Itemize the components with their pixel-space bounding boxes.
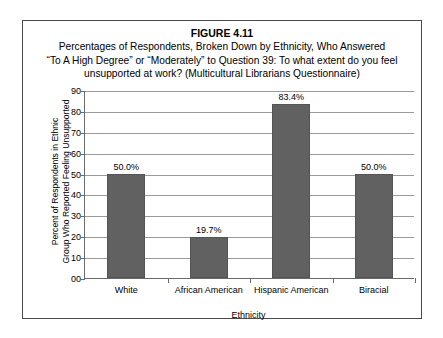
y-axis-tick-label: 60: [71, 149, 81, 159]
bar-value-label: 50.0%: [113, 162, 139, 172]
y-axis-tick-label: 30: [71, 211, 81, 221]
x-axis-tick-mark: [415, 278, 416, 283]
y-axis-tick-mark: [81, 91, 85, 92]
y-axis-title-line-1: Percent of Respondents in Ethnic: [50, 87, 61, 277]
figure-frame: FIGURE 4.11 Percentages of Respondents, …: [22, 20, 422, 319]
bar-value-label: 50.0%: [361, 162, 387, 172]
y-axis-tick-mark: [81, 237, 85, 238]
y-axis-tick-label: 00: [71, 274, 81, 284]
bar-value-label: 83.4%: [278, 92, 304, 102]
y-axis-tick-label: 40: [71, 190, 81, 200]
x-axis-category-label: Hispanic American: [254, 285, 329, 295]
y-axis-title-line-2: Group Who Reported Feeling Unsupported: [60, 87, 71, 277]
bar-value-label: 19.7%: [196, 225, 222, 235]
bar-white[interactable]: 50.0%: [107, 174, 145, 278]
x-axis-category-label: African American: [175, 285, 243, 295]
chart-plot-wrapper: Percent of Respondents in Ethnic Group W…: [23, 21, 421, 318]
y-axis-tick-label: 80: [71, 107, 81, 117]
gridline: [85, 112, 414, 113]
y-axis-tick-mark: [81, 279, 85, 280]
x-axis-title: Ethnicity: [84, 310, 413, 320]
y-axis-tick-mark: [81, 112, 85, 113]
y-axis-tick-mark: [81, 216, 85, 217]
y-axis-tick-mark: [81, 195, 85, 196]
y-axis-tick-mark: [81, 258, 85, 259]
x-axis-category-label: White: [115, 285, 138, 295]
bar-biracial[interactable]: 50.0%: [355, 174, 393, 278]
gridline: [85, 91, 414, 92]
plot-area: 0010203040506070809050.0%White19.7%Afric…: [84, 91, 414, 279]
y-axis-tick-label: 50: [71, 170, 81, 180]
gridline: [85, 133, 414, 134]
bar-african-american[interactable]: 19.7%: [190, 237, 228, 278]
x-axis-tick-mark: [333, 278, 334, 283]
y-axis-tick-mark: [81, 154, 85, 155]
x-axis-category-label: Biracial: [359, 285, 389, 295]
y-axis-tick-mark: [81, 133, 85, 134]
y-axis-tick-label: 10: [71, 253, 81, 263]
x-axis-tick-mark: [250, 278, 251, 283]
y-axis-tick-label: 90: [71, 86, 81, 96]
x-axis-tick-mark: [168, 278, 169, 283]
y-axis-tick-label: 70: [71, 128, 81, 138]
y-axis-tick-mark: [81, 175, 85, 176]
y-axis-title: Percent of Respondents in Ethnic Group W…: [50, 87, 71, 277]
bar-hispanic-american[interactable]: 83.4%: [272, 104, 310, 278]
gridline: [85, 154, 414, 155]
y-axis-tick-label: 20: [71, 232, 81, 242]
